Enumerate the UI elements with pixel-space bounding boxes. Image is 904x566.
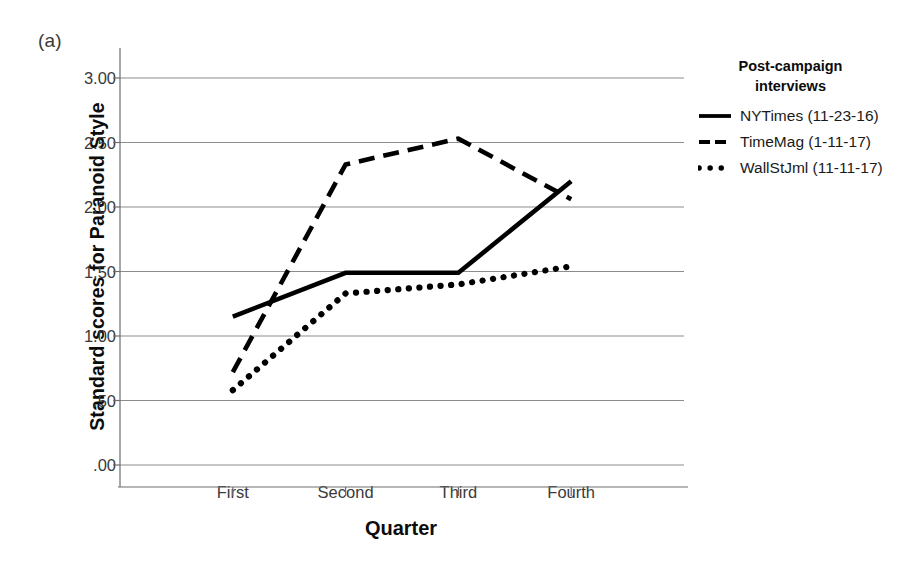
legend-title: Post-campaign interviews [698,57,883,96]
legend-entry-2[interactable]: WallStJml (11-11-17) [698,155,898,180]
legend-swatch-dotted-icon [698,161,732,175]
figure-panel-a: (a) Standard scores for Paranoid Style Q… [0,0,904,566]
legend-entry-1[interactable]: TimeMag (1-11-17) [698,129,898,154]
legend: Post-campaign interviews NYTimes (11-23-… [698,57,898,181]
legend-label: TimeMag (1-11-17) [740,133,871,151]
series-line-2 [233,266,571,390]
legend-entries: NYTimes (11-23-16)TimeMag (1-11-17)WallS… [698,103,898,180]
axis-ticks [113,78,571,496]
legend-swatch-solid-icon [698,109,732,123]
legend-title-line-1: Post-campaign [698,57,883,77]
series-line-1 [233,139,571,372]
legend-label: NYTimes (11-23-16) [740,107,879,125]
data-series [233,139,571,391]
axis-lines [118,48,688,487]
legend-entry-0[interactable]: NYTimes (11-23-16) [698,103,898,128]
legend-title-line-2: interviews [698,77,883,97]
legend-label: WallStJml (11-11-17) [740,159,883,177]
series-line-0 [233,181,571,316]
legend-swatch-dashed-icon [698,135,732,149]
